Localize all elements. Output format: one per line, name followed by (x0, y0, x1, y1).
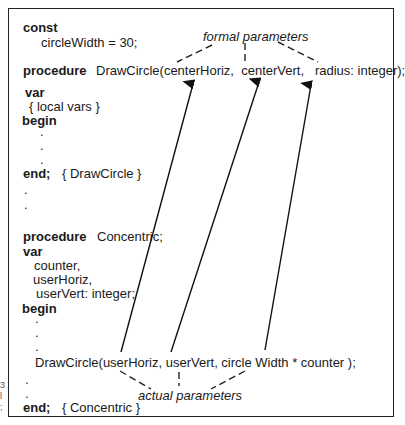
formal-leader-centerhoriz (177, 45, 212, 62)
arrow-uservert-to-centervert (171, 82, 259, 352)
formal-leader-radius (278, 42, 318, 62)
arrow-width-to-radius (265, 85, 311, 350)
actual-leader-userhoriz (120, 371, 151, 389)
arrow-userhoriz-to-centerhoriz (121, 84, 193, 352)
actual-leader-width (211, 371, 245, 389)
